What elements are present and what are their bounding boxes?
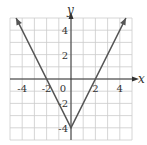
x-tick-label: 4 xyxy=(117,83,123,94)
x-tick-label: 0 xyxy=(60,83,66,94)
absolute-value-graph: -4-202442-2-4 x y xyxy=(0,0,147,145)
y-tick-label: -4 xyxy=(58,123,68,134)
y-tick-label: 4 xyxy=(62,25,68,36)
y-axis-label: y xyxy=(66,3,74,17)
x-axis-label: x xyxy=(138,72,145,86)
y-tick-label: 2 xyxy=(62,50,68,61)
x-tick-label: -4 xyxy=(17,83,27,94)
